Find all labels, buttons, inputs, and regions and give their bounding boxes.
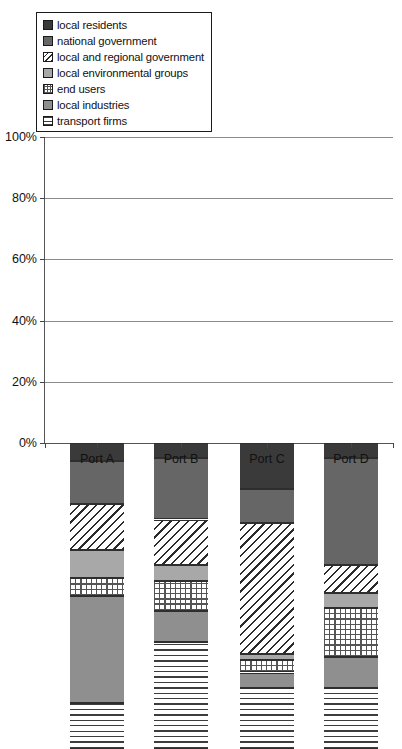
legend-label-transport-firms: transport firms xyxy=(57,113,127,129)
chart-legend: local residents national government loca… xyxy=(36,12,212,132)
segment-endusers[interactable] xyxy=(240,660,294,672)
legend-label-end-users: end users xyxy=(57,81,105,97)
legend-swatch-local-and-regional-government-icon xyxy=(43,52,53,62)
y-axis-tick xyxy=(40,198,45,199)
y-axis-label-60: 60% xyxy=(12,252,37,266)
x-axis-label-port-c: Port C xyxy=(249,452,284,466)
x-axis-label-port-a: Port A xyxy=(80,452,114,466)
plot-area: 0%20%40%60%80%100%Port APort BPort CPort… xyxy=(44,137,393,443)
x-axis-edge-tick xyxy=(393,443,394,448)
legend-label-local-residents: local residents xyxy=(57,17,127,33)
legend-item-local-residents: local residents xyxy=(43,17,206,33)
segment-national[interactable] xyxy=(240,489,294,523)
y-axis-label-0: 0% xyxy=(19,436,37,450)
segment-industries[interactable] xyxy=(154,611,208,642)
x-axis-label-port-d: Port D xyxy=(333,452,368,466)
segment-national[interactable] xyxy=(154,458,208,519)
legend-swatch-local-industries-icon xyxy=(43,100,53,110)
legend-item-local-and-regional-government: local and regional government xyxy=(43,49,206,65)
legend-item-transport-firms: transport firms xyxy=(43,113,206,129)
legend-item-local-environmental-groups: local environmental groups xyxy=(43,65,206,81)
x-axis-tick xyxy=(181,443,182,448)
y-axis-tick xyxy=(40,321,45,322)
y-axis-label-80: 80% xyxy=(12,191,37,205)
segment-envgroups[interactable] xyxy=(154,565,208,580)
x-axis-edge-tick xyxy=(45,443,46,448)
x-axis-tick xyxy=(97,443,98,448)
y-axis-tick xyxy=(40,382,45,383)
segment-transport[interactable] xyxy=(70,703,124,749)
y-axis-tick xyxy=(40,137,45,138)
segment-transport[interactable] xyxy=(240,688,294,749)
legend-swatch-local-residents-icon xyxy=(43,20,53,30)
gridline-80 xyxy=(45,198,393,199)
segment-localreg[interactable] xyxy=(240,523,294,655)
segment-national[interactable] xyxy=(70,461,124,504)
legend-item-local-industries: local industries xyxy=(43,97,206,113)
legend-label-local-industries: local industries xyxy=(57,97,129,113)
x-axis-label-port-b: Port B xyxy=(164,452,199,466)
segment-industries[interactable] xyxy=(324,657,378,688)
segment-transport[interactable] xyxy=(154,642,208,749)
legend-swatch-end-users-icon xyxy=(43,84,53,94)
segment-industries[interactable] xyxy=(240,673,294,688)
segment-transport[interactable] xyxy=(324,688,378,749)
y-axis-tick xyxy=(40,259,45,260)
segment-envgroups[interactable] xyxy=(324,593,378,608)
segment-envgroups[interactable] xyxy=(70,550,124,578)
segment-envgroups[interactable] xyxy=(240,654,294,660)
legend-item-end-users: end users xyxy=(43,81,206,97)
legend-label-local-environmental-groups: local environmental groups xyxy=(57,65,188,81)
segment-endusers[interactable] xyxy=(70,578,124,596)
y-axis-label-20: 20% xyxy=(12,375,37,389)
segment-national[interactable] xyxy=(324,458,378,565)
gridline-20 xyxy=(45,382,393,383)
legend-item-national-government: national government xyxy=(43,33,206,49)
segment-localreg[interactable] xyxy=(154,520,208,566)
legend-swatch-national-government-icon xyxy=(43,36,53,46)
gridline-100 xyxy=(45,137,393,138)
segment-industries[interactable] xyxy=(70,596,124,703)
segment-localreg[interactable] xyxy=(70,504,124,550)
segment-endusers[interactable] xyxy=(154,581,208,612)
legend-swatch-transport-firms-icon xyxy=(43,116,53,126)
gridline-40 xyxy=(45,321,393,322)
legend-label-national-government: national government xyxy=(57,33,157,49)
segment-localreg[interactable] xyxy=(324,565,378,593)
y-axis-label-40: 40% xyxy=(12,314,37,328)
segment-endusers[interactable] xyxy=(324,608,378,657)
x-axis-tick xyxy=(267,443,268,448)
y-axis-label-100: 100% xyxy=(5,130,37,144)
gridline-60 xyxy=(45,259,393,260)
legend-label-local-and-regional-government: local and regional government xyxy=(57,49,204,65)
x-axis-tick xyxy=(351,443,352,448)
legend-swatch-local-environmental-groups-icon xyxy=(43,68,53,78)
